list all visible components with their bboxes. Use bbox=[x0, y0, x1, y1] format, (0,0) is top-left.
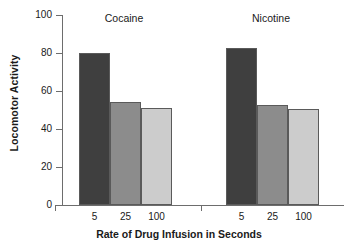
y-tick-100: 100 bbox=[56, 15, 62, 16]
y-tick-label-100: 100 bbox=[35, 9, 52, 20]
y-tick-40: 40 bbox=[56, 129, 62, 130]
bar-cocaine-100 bbox=[141, 108, 172, 205]
x-label-cocaine-100: 100 bbox=[141, 211, 172, 222]
x-label-cocaine-25: 25 bbox=[110, 211, 141, 222]
x-label-nicotine-25: 25 bbox=[257, 211, 288, 222]
bar-cocaine-5 bbox=[79, 53, 110, 205]
x-axis-center-tick bbox=[201, 205, 202, 211]
bar-nicotine-25 bbox=[257, 105, 288, 205]
y-tick-0: 0 bbox=[56, 205, 62, 206]
group-title-cocaine: Cocaine bbox=[79, 12, 169, 24]
x-axis-line bbox=[55, 205, 344, 206]
y-tick-label-60: 60 bbox=[41, 85, 52, 96]
bar-nicotine-100 bbox=[288, 109, 319, 205]
bar-nicotine-5 bbox=[226, 48, 257, 205]
y-tick-label-0: 0 bbox=[46, 199, 52, 210]
y-axis-title: Locomotor Activity bbox=[2, 0, 26, 205]
y-tick-label-20: 20 bbox=[41, 161, 52, 172]
x-label-nicotine-100: 100 bbox=[288, 211, 319, 222]
x-label-nicotine-5: 5 bbox=[226, 211, 257, 222]
y-axis-title-text: Locomotor Activity bbox=[8, 54, 20, 151]
bar-chart: Locomotor Activity 100 80 60 40 20 0 Coc… bbox=[0, 0, 358, 250]
y-tick-60: 60 bbox=[56, 91, 62, 92]
y-tick-80: 80 bbox=[56, 53, 62, 54]
bar-cocaine-25 bbox=[110, 102, 141, 205]
plot-area: 100 80 60 40 20 0 Cocaine Nicotine 5 25 bbox=[62, 15, 344, 205]
y-tick-label-80: 80 bbox=[41, 47, 52, 58]
y-tick-label-40: 40 bbox=[41, 123, 52, 134]
x-label-cocaine-5: 5 bbox=[79, 211, 110, 222]
y-tick-20: 20 bbox=[56, 167, 62, 168]
group-title-nicotine: Nicotine bbox=[226, 12, 316, 24]
y-axis-line bbox=[62, 15, 63, 205]
x-axis-title: Rate of Drug Infusion in Seconds bbox=[0, 228, 358, 240]
